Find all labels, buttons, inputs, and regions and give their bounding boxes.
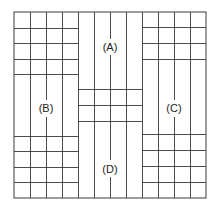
grid-diagram: (A) (B) (C) (D) — [0, 0, 217, 207]
region-label-d: (D) — [102, 163, 117, 175]
region-label-a: (A) — [103, 41, 118, 53]
region-label-c: (C) — [166, 102, 181, 114]
region-label-b: (B) — [39, 102, 54, 114]
